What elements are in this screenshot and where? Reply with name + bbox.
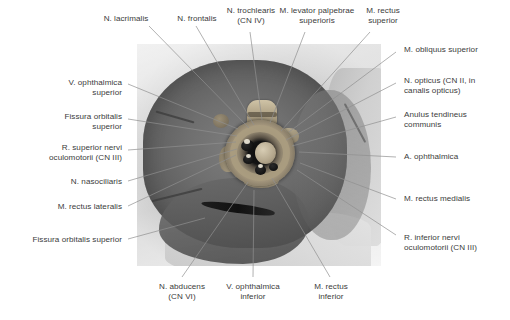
figure-canvas: N. lacrimalis N. frontalis N. trochleari… [0, 0, 510, 320]
label-m-obliquus-superior: M. obliquus superior [404, 45, 508, 55]
label-anulus-tendineus-communis: Anulus tendineus communis [404, 110, 504, 129]
m-rectus-superior-structure [247, 112, 277, 117]
m-obliquus-superior-structure [213, 114, 229, 128]
label-m-rectus-lateralis: M. rectus lateralis [14, 202, 122, 212]
label-n-abducens: N. abducens (CN VI) [146, 282, 218, 301]
orbital-apex-cluster [217, 106, 303, 192]
n-opticus-structure [255, 142, 276, 164]
label-m-rectus-superior: M. rectus superior [352, 6, 414, 25]
nerve-highlight-c [258, 164, 263, 168]
nerve-highlight-b [246, 154, 251, 158]
label-fissura-orbitalis-superior-1: Fissura orbitalis superior [22, 112, 122, 131]
nerve-highlight-a [244, 139, 250, 144]
label-n-opticus: N. opticus (CN II, in canalis opticus) [404, 76, 508, 95]
cone-shadow-lateral [293, 90, 371, 240]
anatomy-photograph [137, 44, 381, 266]
label-n-nasociliaris: N. nasociliaris [22, 177, 122, 187]
label-r-superior-nervi-oculomotorii: R. superior nervi oculomotorii (CN III) [10, 143, 122, 162]
label-v-ophthalmica-superior: V. ophthalmica superior [22, 78, 122, 97]
label-m-rectus-inferior: M. rectus inferior [300, 282, 362, 301]
label-r-inferior-nervi-oculomotorii: R. inferior nervi oculomotorii (CN III) [404, 233, 508, 252]
vessel-structure-d [269, 163, 278, 171]
label-a-ophthalmica: A. ophthalmica [404, 152, 504, 162]
label-m-rectus-medialis: M. rectus medialis [404, 194, 504, 204]
label-n-lacrimalis: N. lacrimalis [90, 14, 162, 24]
label-fissura-orbitalis-superior-2: Fissura orbitalis superior [6, 235, 122, 245]
label-v-ophthalmica-inferior: V. ophthalmica inferior [214, 282, 292, 301]
